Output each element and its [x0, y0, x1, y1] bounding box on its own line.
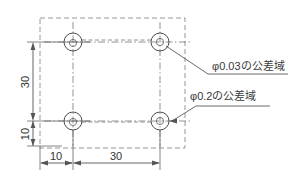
dimension-vertical-10-arrow-bottom [31, 139, 36, 146]
dimension-vertical-10-arrow-top [31, 121, 36, 128]
part-outline-dashed-rect [40, 18, 185, 148]
dimension-horizontal-10: 10 [40, 150, 73, 165]
dimension-vertical-30-arrow-bottom [31, 113, 36, 121]
dimension-horizontal-10-arrow-left [40, 161, 48, 166]
annotation-tolerance-zone-003-label: φ0.03の公差域 [212, 59, 285, 72]
dimension-vertical-10-label: 10 [19, 128, 31, 140]
dimension-vertical-30: 30 [19, 42, 35, 121]
leader-tolerance-zone-02: φ0.2の公差域 [169, 89, 270, 123]
dimension-horizontal-30-label: 30 [110, 150, 122, 162]
technical-drawing-canvas: 30 10 10 30 φ0.03の公差域 [0, 0, 296, 176]
leader-line-tolerance-zone-02 [172, 106, 270, 121]
leader-tolerance-zone-003: φ0.03の公差域 [166, 46, 288, 74]
leader-arrow-tolerance-zone-02 [169, 119, 177, 124]
dimension-vertical-30-arrow-top [31, 42, 36, 50]
dimension-horizontal-30-arrow-right [152, 161, 160, 166]
dimension-vertical-30-label: 30 [19, 76, 31, 88]
dimension-vertical-10: 10 [19, 121, 35, 146]
dimension-horizontal-10-label: 10 [50, 150, 62, 162]
dimension-horizontal-30: 30 [73, 150, 160, 165]
dimension-horizontal-30-arrow-left [73, 161, 81, 166]
annotation-tolerance-zone-02-label: φ0.2の公差域 [190, 89, 256, 102]
drawing-svg: 30 10 10 30 φ0.03の公差域 [0, 0, 296, 176]
dimension-horizontal-10-arrow-right [65, 161, 73, 166]
